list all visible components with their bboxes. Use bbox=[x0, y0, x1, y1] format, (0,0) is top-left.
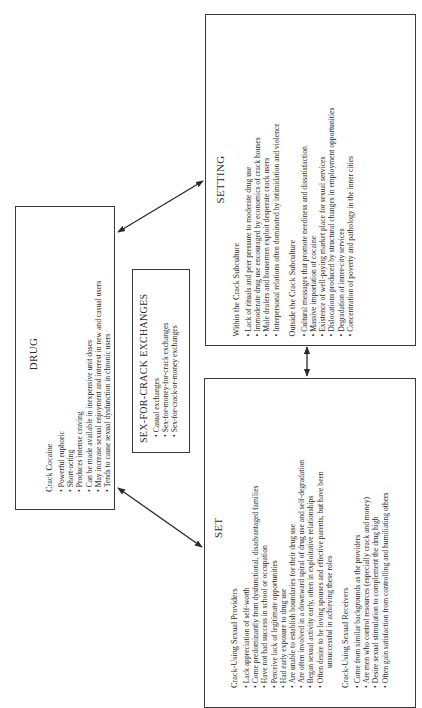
drug-subtitle: Crack Cocaine bbox=[45, 216, 54, 492]
list-item: Massive importation of cocaine bbox=[308, 22, 317, 336]
setting-outside-list: Cultural messages that promote neediness… bbox=[299, 22, 354, 336]
set-section-heading: Crack-Using Sexual Receivers bbox=[341, 386, 350, 688]
list-item: Had early exposure to drug use bbox=[279, 386, 288, 688]
list-item: Cultural messages that promote neediness… bbox=[299, 22, 308, 336]
list-item-continuation: unsuccessful in achieving these roles bbox=[325, 386, 334, 688]
list-item: Immoderate drug use encouraged by econom… bbox=[252, 22, 261, 336]
setting-within-list: Lack of rituals and peer pressure to mod… bbox=[243, 22, 280, 336]
list-item: Powerful euphoric bbox=[57, 216, 66, 492]
drug-title: DRUG bbox=[27, 216, 39, 492]
list-item: Interpersonal relations often dominated … bbox=[271, 22, 280, 336]
list-item: Short-acting bbox=[66, 216, 75, 492]
list-item: Dislocations produced by structural chan… bbox=[326, 22, 335, 336]
setting-section-heading: Within the Crack Subculture bbox=[231, 22, 240, 336]
list-item: Come from similar backgrounds as the pro… bbox=[353, 386, 362, 688]
arrow-drug-set bbox=[118, 488, 202, 547]
list-item: Are often involved in a downward spiral … bbox=[297, 386, 306, 688]
set-section-heading: Crack-Using Sexual Providers bbox=[230, 386, 239, 688]
list-item: Often desire to be loving spouses and ef… bbox=[316, 386, 325, 688]
list-item: Began sexual activity early, often in ex… bbox=[306, 386, 315, 688]
exchanges-list: Casual exchanges Sex-for-money-for-crack… bbox=[152, 277, 180, 443]
set-receivers-list: Come from similar backgrounds as the pro… bbox=[353, 386, 390, 688]
list-item: Casual exchanges bbox=[152, 277, 161, 437]
list-item: Can be made available in inexpensive uni… bbox=[85, 216, 94, 492]
list-item: Perceive lack of legitimate opportunitie… bbox=[270, 386, 279, 688]
list-item: Have not had success in school or occupa… bbox=[260, 386, 269, 688]
set-providers-list: Lack appreciation of self-worth Come pre… bbox=[242, 386, 334, 688]
arrow-drug-setting bbox=[118, 181, 203, 232]
setting-section-heading: Outside the Crack Subculture bbox=[287, 22, 296, 336]
set-box: SET Crack-Using Sexual Providers Lack ap… bbox=[204, 378, 416, 708]
drug-box: DRUG Crack Cocaine Powerful euphoric Sho… bbox=[15, 206, 115, 510]
list-item: Lack appreciation of self-worth bbox=[242, 386, 251, 688]
setting-box: SETTING Within the Crack Subculture Lack… bbox=[205, 14, 416, 346]
list-item: Produces intense craving bbox=[75, 216, 84, 492]
setting-title: SETTING bbox=[213, 22, 225, 336]
list-item: Concentration of poverty and pathology i… bbox=[345, 22, 354, 336]
list-item: Are unable to establish boundaries for t… bbox=[288, 386, 297, 688]
list-item: Often gain satisfaction from controlling… bbox=[381, 386, 390, 688]
list-item: Existence of well-paying market place fo… bbox=[317, 22, 326, 336]
exchanges-box: SEX-FOR-CRACK EXCHANGES Casual exchanges… bbox=[132, 269, 190, 453]
list-item: Come predominantly from dysfunctional, d… bbox=[251, 386, 260, 688]
drug-list: Powerful euphoric Short-acting Produces … bbox=[57, 216, 112, 492]
list-item: Tends to cause sexual dysfunction in chr… bbox=[103, 216, 112, 492]
list-item: Desire sexual stimulation to complement … bbox=[371, 386, 380, 688]
list-item: Are men who control resources (especiall… bbox=[362, 386, 371, 688]
list-item: Male dealers and housemen exploit desper… bbox=[261, 22, 270, 336]
list-item: Degradation of inner-city services bbox=[336, 22, 345, 336]
list-item: May increase sexual enjoyment and intere… bbox=[94, 216, 103, 492]
exchanges-title: SEX-FOR-CRACK EXCHANGES bbox=[138, 277, 149, 443]
list-item: Sex-for-money-for-crack exchanges bbox=[161, 277, 170, 437]
list-item: Lack of rituals and peer pressure to mod… bbox=[243, 22, 252, 336]
set-title: SET bbox=[212, 386, 224, 688]
list-item: Sex-for-crack-or-money exchanges bbox=[170, 277, 179, 437]
